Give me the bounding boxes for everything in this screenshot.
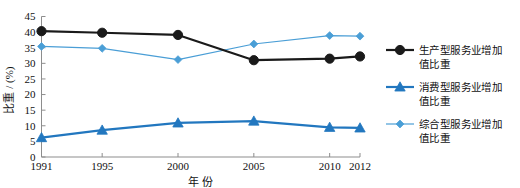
legend-label-line2: 值比重: [419, 58, 450, 70]
diamond-marker-icon: [396, 120, 404, 128]
circle-marker-icon: [325, 54, 334, 63]
y-tick-label: 10: [25, 120, 37, 132]
circle-marker-icon: [355, 52, 364, 61]
line-chart-figure: 051015202530354045 199119952000200520102…: [0, 0, 520, 188]
circle-marker-icon: [173, 30, 182, 39]
y-tick-label: 5: [30, 135, 36, 147]
y-tick-label: 45: [25, 10, 37, 22]
x-tick-label: 2010: [319, 160, 342, 172]
diamond-marker-icon: [38, 43, 46, 51]
series-line: [42, 31, 361, 60]
circle-marker-icon: [249, 56, 258, 65]
legend-item[interactable]: 消费型服务业增加值比重: [386, 81, 502, 107]
chart-legend: 生产型服务业增加值比重消费型服务业增加值比重综合型服务业增加值比重: [386, 44, 502, 144]
circle-marker-icon: [98, 28, 107, 37]
chart-canvas: 051015202530354045 199119952000200520102…: [0, 0, 520, 188]
legend-label-line1: 综合型服务业增加: [419, 118, 502, 130]
legend-label-line2: 值比重: [419, 95, 450, 107]
x-tick-label: 2000: [167, 160, 190, 172]
circle-marker-icon: [395, 45, 404, 54]
series-line: [42, 36, 361, 60]
legend-label-line1: 消费型服务业增加: [419, 81, 502, 93]
data-series: [36, 116, 365, 142]
x-tick-label: 2012: [349, 160, 371, 172]
y-tick-label: 15: [25, 104, 37, 116]
y-tick-label: 30: [25, 57, 37, 69]
x-tick-label: 1995: [91, 160, 114, 172]
data-series: [37, 27, 365, 65]
legend-item[interactable]: 生产型服务业增加值比重: [386, 44, 502, 70]
series-group: [36, 27, 365, 142]
circle-marker-icon: [37, 27, 46, 36]
diamond-marker-icon: [250, 40, 258, 48]
diamond-marker-icon: [356, 32, 364, 40]
legend-item[interactable]: 综合型服务业增加值比重: [386, 118, 502, 144]
legend-label-line1: 生产型服务业增加: [419, 44, 502, 56]
y-tick-label: 20: [25, 88, 37, 100]
diamond-marker-icon: [174, 56, 182, 64]
diamond-marker-icon: [326, 32, 334, 40]
x-tick-label: 1991: [31, 160, 53, 172]
y-axis-title: 比重 / (%): [2, 66, 16, 113]
legend-label-line2: 值比重: [419, 132, 450, 144]
x-axis-tick-group: 199119952000200520102012: [31, 153, 372, 172]
diamond-marker-icon: [98, 44, 106, 52]
series-line: [42, 121, 361, 138]
y-tick-label: 25: [25, 73, 37, 85]
y-tick-label: 40: [25, 26, 37, 38]
x-axis-title: 年 份: [188, 175, 213, 188]
x-tick-label: 2005: [243, 160, 266, 172]
y-tick-label: 35: [25, 42, 37, 54]
